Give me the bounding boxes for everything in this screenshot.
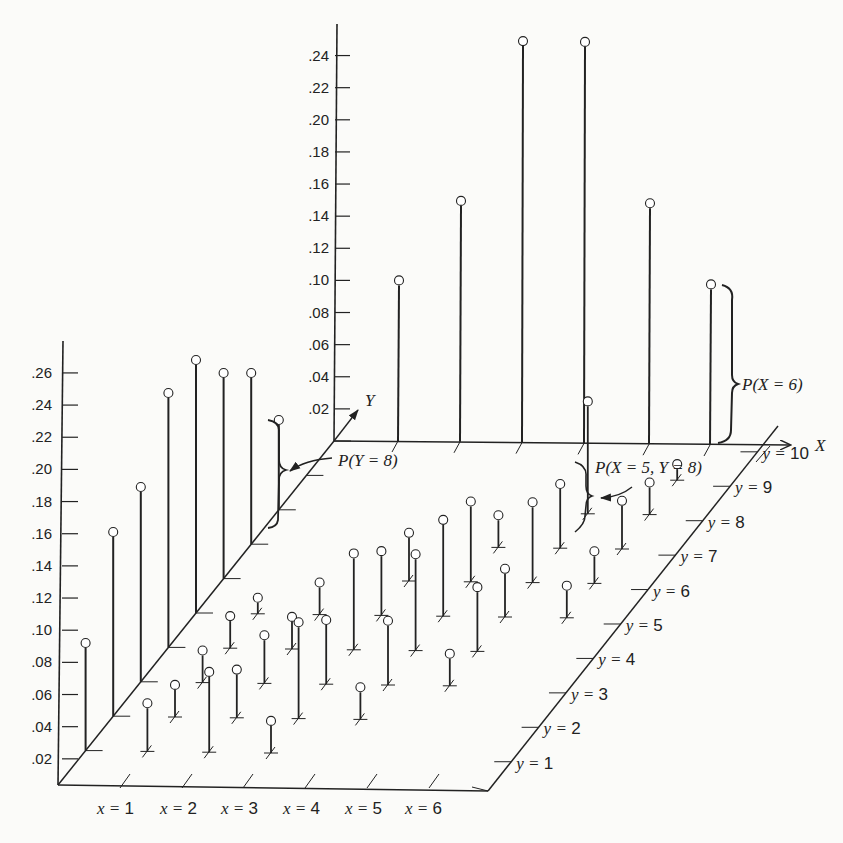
stem-head <box>377 547 386 556</box>
stem-head <box>136 483 145 492</box>
x-tick <box>305 774 315 788</box>
x-tick-label: x = 3 <box>220 799 258 818</box>
marginal-x-stem <box>649 208 650 444</box>
marginal-y-tick-label: .14 <box>31 557 52 574</box>
marginal-x-tick-label: .18 <box>308 143 329 160</box>
stem-head <box>232 665 241 674</box>
y-tick-label: y = 2 <box>542 719 581 738</box>
stem-head <box>556 479 565 488</box>
annotation-pxy: P(X = 5, Y = 8) <box>594 458 702 477</box>
stem-head <box>81 639 90 648</box>
annotation-py8: P(Y = 8) <box>337 451 398 470</box>
y-tick-label: y = 9 <box>733 478 772 497</box>
marginal-x-tick-label: .06 <box>308 336 329 353</box>
stem-head <box>501 564 510 573</box>
stem-head <box>494 511 503 520</box>
y-tick-label: y = 8 <box>706 513 745 532</box>
stem-head <box>707 280 716 289</box>
x-grid-tick <box>704 445 710 456</box>
marginal-x-tick-label: .22 <box>308 79 329 96</box>
brace-pxy <box>575 462 592 532</box>
stem-head <box>198 646 207 655</box>
y-tick-label: y = 7 <box>678 547 717 566</box>
marginal-x-tick-label: .08 <box>308 304 329 321</box>
marginal-x-stem <box>460 206 461 442</box>
marginal-y-tick-label: .06 <box>31 686 52 703</box>
marginal-x-tick-label: .20 <box>308 111 329 128</box>
stem-head <box>590 547 599 556</box>
marginal-x-stem <box>710 289 711 445</box>
stem-head <box>439 515 448 524</box>
stem-head <box>618 496 627 505</box>
stem-head <box>315 578 324 587</box>
y-tick-label: y = 10 <box>760 444 808 463</box>
stem-head <box>411 550 420 559</box>
y-tick-label: y = 4 <box>596 650 635 669</box>
x-axis-front <box>58 785 488 791</box>
stem-head <box>445 649 454 658</box>
x-grid-tick <box>516 443 522 454</box>
marginal-x-tick-label: .12 <box>308 239 329 256</box>
stem-head <box>143 699 152 708</box>
marginal-x-stem <box>398 285 399 441</box>
marginal-x-vertical-axis <box>334 24 337 441</box>
y-tick-label: y = 1 <box>514 754 553 773</box>
marginal-y-tick-label: .02 <box>31 750 52 767</box>
stem-head <box>405 528 414 537</box>
marginal-y-panel: .02.04.06.08.10.12.14.16.18.20.22.24.26 <box>31 341 283 785</box>
stem-head <box>219 369 228 378</box>
marginal-x-stem <box>584 47 585 444</box>
marginal-x-tick-label: .04 <box>308 368 329 385</box>
x-tick <box>367 774 377 788</box>
x-axis-label: X <box>814 436 826 455</box>
marginal-y-tick-label: .20 <box>31 460 52 477</box>
stem-head <box>356 683 365 692</box>
marginal-x-tick-label: .16 <box>308 175 329 192</box>
brace-px6 <box>718 285 738 443</box>
marginal-x-tick-label: .14 <box>308 207 329 224</box>
marginal-y-vertical-axis <box>58 341 63 785</box>
marginal-y-tick-label: .08 <box>31 653 52 670</box>
x-tick <box>429 774 439 788</box>
stem-head <box>247 369 256 378</box>
stem-head <box>562 581 571 590</box>
marginal-y-tick-label: .16 <box>31 525 52 542</box>
x-tick-label: x = 5 <box>344 799 382 818</box>
marginal-x-stem <box>522 46 523 443</box>
x-tick <box>182 774 192 788</box>
marginal-y-tick-label: .10 <box>31 621 52 638</box>
stem-head <box>646 199 655 208</box>
marginal-x-tick-label: .02 <box>308 400 329 417</box>
marginal-y-tick-label: .12 <box>31 589 52 606</box>
stem-head <box>466 497 475 506</box>
x-grid-tick <box>643 444 649 455</box>
stem-head <box>171 680 180 689</box>
stem-head <box>253 593 262 602</box>
marginal-y-tick-label: .26 <box>31 364 52 381</box>
joint-stems <box>140 397 684 759</box>
x-grid-tick <box>578 443 584 454</box>
stem-head <box>260 631 269 640</box>
stem-head <box>519 37 528 46</box>
stem-head <box>109 528 118 537</box>
marginal-y-tick-label: .18 <box>31 493 52 510</box>
marginal-y-tick-label: .24 <box>31 396 52 413</box>
marginal-y-tick-label: .22 <box>31 428 52 445</box>
joint-probability-3d-chart: .02.04.06.08.10.12.14.16.18.20.22.24 .02… <box>0 0 843 843</box>
stem-head <box>164 389 173 398</box>
arrow-pxy <box>601 487 632 498</box>
annotation-px6: P(X = 6) <box>741 375 803 394</box>
stem-head <box>192 356 201 365</box>
stem-head <box>473 583 482 592</box>
stem-head <box>349 549 358 558</box>
stem-head <box>294 618 303 627</box>
marginal-y-tick-label: .04 <box>31 718 52 735</box>
x-tick-label: x = 4 <box>282 799 320 818</box>
marginal-x-panel: .02.04.06.08.10.12.14.16.18.20.22.24 <box>308 24 790 462</box>
y-tick-label: y = 5 <box>624 616 663 635</box>
stem-head <box>267 716 276 725</box>
x-tick <box>243 774 253 788</box>
stem-head <box>395 276 404 285</box>
y-axis-arrow <box>334 410 358 441</box>
y-tick-label: y = 3 <box>569 685 608 704</box>
